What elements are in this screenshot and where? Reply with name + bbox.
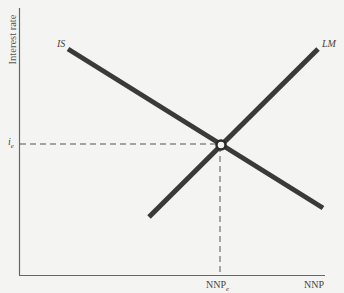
is-curve	[68, 49, 323, 208]
equilibrium-interest-label: ie	[8, 136, 14, 150]
is-lm-diagram	[0, 0, 344, 293]
is-curve-label: IS	[57, 38, 65, 49]
equilibrium-nnp-label: NNPe	[206, 279, 229, 293]
equilibrium-point	[217, 141, 226, 150]
y-axis-label: Interest rate	[7, 0, 18, 80]
x-axis-label: NNP	[304, 279, 324, 290]
lm-curve-label: LM	[322, 38, 336, 49]
